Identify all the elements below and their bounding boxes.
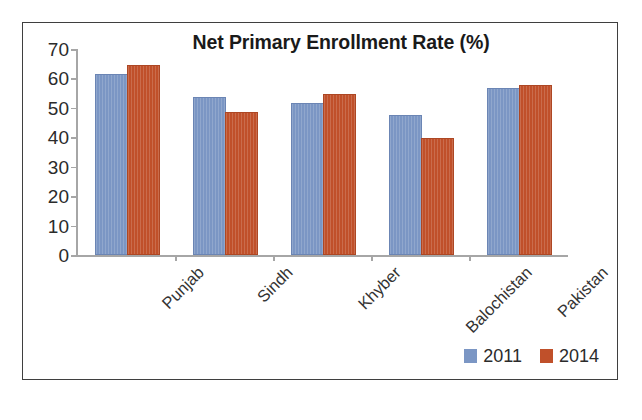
y-axis-tick-label: 20 [27,187,69,206]
y-axis-tick-label: 30 [27,157,69,176]
y-axis-tick-label: 40 [27,128,69,147]
bar-2014-balochistan[interactable] [421,138,454,255]
y-axis-tick [71,49,77,51]
bar-group [77,49,175,255]
y-axis-tick [71,78,77,80]
legend-label: 2011 [483,347,522,365]
y-axis-tick [71,226,77,228]
y-axis-tick [71,167,77,169]
bar-group [469,49,567,255]
category-label-sindh: Sindh [253,263,296,306]
bar-2014-sindh[interactable] [225,112,258,255]
x-axis-line [76,255,568,257]
bar-2014-khyber[interactable] [323,94,356,255]
y-axis-tick [71,108,77,110]
bar-group [175,49,273,255]
x-axis-tick [273,255,275,261]
x-axis-tick [469,255,471,261]
category-label-pakistan: Pakistan [554,263,612,321]
bar-2011-balochistan[interactable] [389,115,422,255]
y-axis-tick [71,255,77,257]
legend-item-2011[interactable]: 2011 [464,347,522,365]
y-axis-tick-label: 60 [27,69,69,88]
plot-area [77,49,567,255]
legend-item-2014[interactable]: 2014 [540,347,599,365]
y-axis-tick [71,196,77,198]
x-axis-tick [371,255,373,261]
bar-2014-pakistan[interactable] [519,85,552,255]
y-axis-tick-label: 10 [27,216,69,235]
y-axis-tick [71,137,77,139]
legend-swatch-icon [540,349,553,363]
bar-2011-sindh[interactable] [193,97,226,255]
bar-2014-punjab[interactable] [127,65,160,255]
legend-swatch-icon [464,349,477,363]
bar-2011-pakistan[interactable] [487,88,520,255]
chart-frame: Net Primary Enrollment Rate (%) 01020304… [22,22,618,380]
bar-group [371,49,469,255]
category-label-balochistan: Balochistan [462,263,536,337]
bar-group [273,49,371,255]
bar-2011-punjab[interactable] [95,74,128,256]
y-axis-labels: 010203040506070 [23,49,69,255]
category-label-punjab: Punjab [158,263,208,313]
x-axis-tick [175,255,177,261]
y-axis-tick-label: 0 [27,246,69,265]
bar-2011-khyber[interactable] [291,103,324,255]
legend-label: 2014 [559,347,599,365]
category-label-khyber: Khyber [354,263,404,313]
chart-legend: 20112014 [464,347,599,365]
y-axis-tick-label: 70 [27,40,69,59]
y-axis-tick-label: 50 [27,98,69,117]
